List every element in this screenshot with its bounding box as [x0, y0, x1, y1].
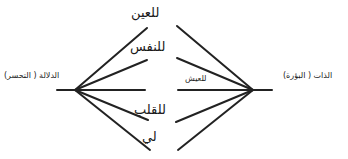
- branch-label-qalb: للقلب: [134, 103, 166, 116]
- left-branch-li: [75, 90, 150, 150]
- right-branch-qalb: [176, 90, 253, 122]
- branch-label-ain: للعين: [131, 6, 159, 19]
- left-branch-nafs: [75, 60, 147, 90]
- left-node-label: الدلالة ( التحسر): [4, 72, 59, 80]
- fan-diagram: الدلالة ( التحسر) الذات ( البؤرة) للعين …: [0, 0, 348, 159]
- left-branch-ain: [75, 28, 147, 90]
- right-branch-li: [178, 90, 253, 150]
- branch-label-aish: للعيش: [185, 75, 207, 83]
- branch-label-nafs: للنفس: [130, 40, 165, 53]
- branch-label-li: لي: [142, 130, 157, 143]
- right-node-label: الذات ( البؤرة): [283, 72, 332, 80]
